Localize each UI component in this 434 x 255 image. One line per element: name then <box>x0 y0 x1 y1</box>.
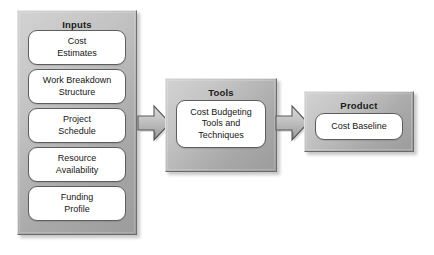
input-item-project-schedule-line1: Project <box>58 114 96 126</box>
group-title-tools: Tools <box>166 87 276 98</box>
input-item-work-breakdown-structure-line2: Structure <box>43 87 111 99</box>
tools-item-line2: Tools and <box>190 118 252 130</box>
product-item-cost-baseline[interactable]: Cost Baseline <box>315 113 403 140</box>
input-item-cost-estimates-line2: Estimates <box>57 48 97 60</box>
input-item-work-breakdown-structure-line1: Work Breakdown <box>43 75 111 87</box>
input-item-cost-estimates-line1: Cost <box>57 36 97 48</box>
input-item-funding-profile-line2: Profile <box>61 204 94 216</box>
group-title-inputs: Inputs <box>18 19 136 30</box>
tools-item-line1: Cost Budgeting <box>190 107 252 119</box>
input-item-resource-availability-line2: Availability <box>56 165 98 177</box>
tools-item-cost-budgeting-tools-and-techniques[interactable]: Cost Budgeting Tools and Techniques <box>176 100 266 148</box>
group-title-product: Product <box>305 100 413 111</box>
input-item-project-schedule[interactable]: Project Schedule <box>28 108 126 143</box>
input-item-project-schedule-line2: Schedule <box>58 126 96 138</box>
input-item-resource-availability-line1: Resource <box>56 153 98 165</box>
input-item-work-breakdown-structure[interactable]: Work Breakdown Structure <box>28 69 126 104</box>
product-item-cost-baseline-line1: Cost Baseline <box>331 121 387 133</box>
input-item-cost-estimates[interactable]: Cost Estimates <box>28 30 126 65</box>
input-item-funding-profile[interactable]: Funding Profile <box>28 186 126 221</box>
input-item-funding-profile-line1: Funding <box>61 192 94 204</box>
tools-item-line3: Techniques <box>190 130 252 142</box>
input-item-resource-availability[interactable]: Resource Availability <box>28 147 126 182</box>
diagram-canvas: Inputs Cost Estimates Work Breakdown Str… <box>0 0 434 255</box>
